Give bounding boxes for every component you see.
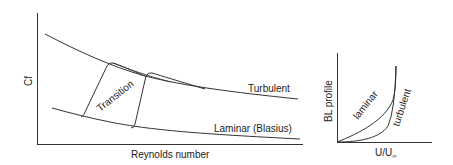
laminar-label: Laminar (Blasius) (214, 123, 292, 134)
diagram-canvas: Turbulent Laminar (Blasius) Transition R… (0, 0, 453, 165)
turbulent-label: Turbulent (248, 83, 290, 94)
laminar-profile-label: laminar (351, 88, 380, 121)
y-axis-label-left: Cf (23, 76, 34, 86)
turbulent-profile-label: turbulent (390, 87, 413, 128)
x-axis-label-left: Reynolds number (131, 149, 210, 160)
transition-label: Transition (94, 78, 135, 113)
right-chart-axes (337, 53, 432, 143)
y-axis-label-right: BL profile (323, 80, 334, 122)
x-axis-label-right: U/U∞ (375, 147, 397, 159)
